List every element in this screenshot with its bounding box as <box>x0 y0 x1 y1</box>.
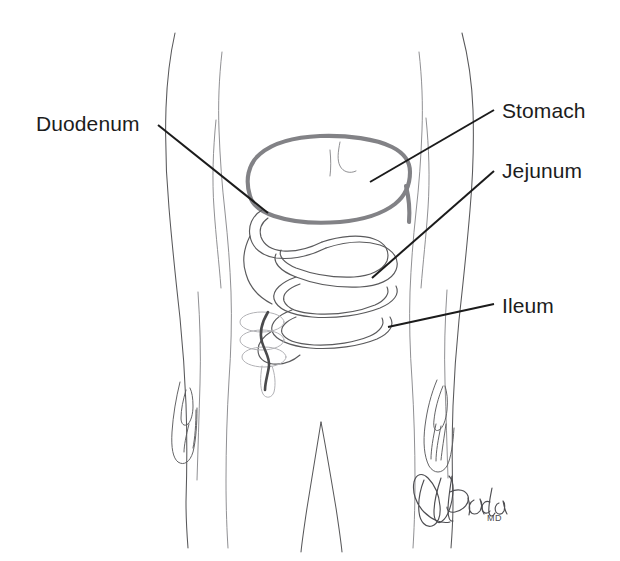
signature-initial-a <box>434 476 453 523</box>
stomach-group <box>248 136 410 223</box>
signature-credential: MD <box>487 513 502 523</box>
stomach-outline <box>248 136 410 223</box>
label-duodenum: Duodenum <box>36 113 140 134</box>
right-hand-finger-3 <box>441 424 446 460</box>
leader-line-ileum <box>388 304 494 327</box>
torso-right-flank-line <box>421 118 429 288</box>
left-hip-contour <box>197 292 200 480</box>
colon-group <box>240 312 286 397</box>
torso-right-inner-contour <box>410 52 423 548</box>
body-outline-group <box>166 33 474 552</box>
crotch-line <box>301 422 321 552</box>
torso-left-inner-contour <box>219 52 232 548</box>
right-hand-outer <box>424 380 454 472</box>
torso-right-outer-contour <box>451 33 473 548</box>
torso-left-outer-contour <box>166 33 188 548</box>
leader-lines-group <box>158 110 494 327</box>
hands-group <box>172 380 454 472</box>
label-stomach: Stomach <box>502 100 586 121</box>
leader-line-jejunum <box>372 171 494 278</box>
ileum-coil-inner <box>282 317 383 345</box>
colon-lumen-line <box>261 312 269 390</box>
small-intestine-group <box>244 210 397 364</box>
left-hand-thumb <box>181 388 193 425</box>
label-ileum: Ileum <box>502 295 554 316</box>
right-hip-contour <box>445 290 448 478</box>
jejunum-coil-upper-outer <box>275 242 397 287</box>
anatomy-figure: Duodenum Stomach Jejunum Ileum MD <box>0 0 620 561</box>
stomach-fundus-notch <box>338 142 356 172</box>
ileum-coil-outer <box>272 310 392 349</box>
crotch-line-right <box>321 422 342 552</box>
right-hand-finger-2 <box>436 426 441 461</box>
jejunum-coil-upper-inner <box>280 236 388 277</box>
pylorus-duodenum-outlet <box>406 186 409 222</box>
label-jejunum: Jejunum <box>502 160 582 181</box>
abdomen-midline-hint <box>330 150 331 176</box>
jejunum-coil-mid-inner <box>284 284 388 314</box>
right-hand-finger-1 <box>431 424 436 459</box>
anatomy-illustration-svg <box>0 0 620 561</box>
